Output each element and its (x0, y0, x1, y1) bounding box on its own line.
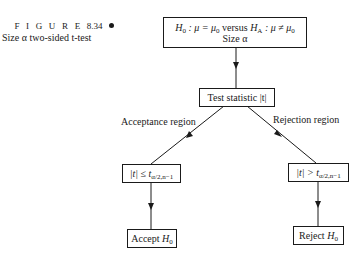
null-expression: : μ = μ (186, 22, 216, 33)
accept-text: Accept H0 (131, 233, 173, 244)
reject-h0-box: Reject H0 (293, 226, 344, 245)
alt-expression: : μ ≠ μ (262, 22, 291, 33)
sub: 0 (334, 235, 338, 243)
rejection-region-label: Rejection region (273, 114, 339, 125)
arrow-down-icon (315, 201, 321, 208)
condition-lhs: |t| ≤ t (130, 168, 152, 179)
accept-h0-box: Accept H0 (127, 229, 177, 248)
sub: α/2,n−1 (319, 172, 341, 180)
reject-condition-text: |t| > tα/2,n−1 (296, 167, 341, 178)
reject-text: Reject H0 (299, 230, 338, 241)
arrow-down-icon (148, 203, 154, 210)
hypothesis-box: H0 : μ = μ0 versus HA : μ ≠ μ0 Size α (163, 17, 307, 48)
sub: 0 (291, 27, 295, 35)
test-statistic-box: Test statistic |t| (199, 88, 275, 107)
versus-text: versus (220, 22, 251, 33)
reject-condition-box: |t| > tα/2,n−1 (288, 163, 349, 182)
size-line: Size α (223, 33, 248, 44)
arrow-down-icon (233, 62, 239, 69)
test-statistic-text: Test statistic |t| (208, 92, 267, 103)
acceptance-region-label: Acceptance region (121, 116, 196, 127)
accept-condition-text: |t| ≤ tα/2,n−1 (130, 168, 173, 179)
sub: α/2,n−1 (151, 173, 173, 181)
accept-word: Accept (131, 233, 162, 244)
sub: 0 (169, 238, 173, 246)
accept-condition-box: |t| ≤ tα/2,n−1 (122, 164, 181, 183)
condition-lhs: |t| > t (296, 167, 319, 178)
hypothesis-line: H0 : μ = μ0 versus HA : μ ≠ μ0 (175, 22, 295, 33)
reject-word: Reject (299, 230, 327, 241)
